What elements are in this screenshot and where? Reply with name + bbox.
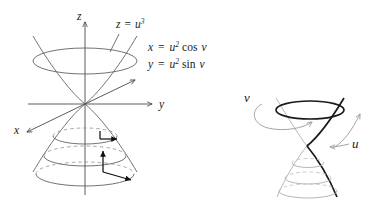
right-section-3-visible bbox=[279, 191, 337, 198]
right-section-3-hidden bbox=[279, 184, 337, 191]
right-lower-profile-light bbox=[277, 146, 307, 197]
right-rim-ellipse bbox=[276, 101, 344, 119]
u-leader-arrow bbox=[330, 144, 349, 147]
z-eq-exponent: 3 bbox=[140, 17, 145, 26]
right-panel-group: v u bbox=[244, 90, 360, 198]
right-lower-profile-bold bbox=[307, 146, 337, 197]
svg-text:z=u3: z=u3 bbox=[115, 17, 145, 30]
equation-x: x=u2cosv bbox=[147, 40, 207, 53]
eq-y-equals: = bbox=[158, 58, 165, 70]
x-axis bbox=[27, 104, 85, 132]
eq-y-lhs: y bbox=[147, 58, 154, 71]
upper-profile-right bbox=[85, 36, 137, 104]
v-direction-arrow bbox=[254, 104, 312, 130]
x-axis-opposite-ray bbox=[85, 80, 135, 104]
upper-profile-left bbox=[33, 36, 85, 104]
tangent-lower-horizontal bbox=[103, 172, 131, 180]
eq-x-arg: v bbox=[201, 41, 207, 53]
x-axis-label: x bbox=[13, 124, 20, 136]
z-label-leader bbox=[110, 34, 119, 52]
figure-canvas: z y x z=u3 x=u2cosv y=u2sinv bbox=[0, 0, 373, 204]
parametric-equations: x=u2cosv y=u2sinv bbox=[147, 40, 207, 71]
equation-y: y=u2sinv bbox=[147, 57, 206, 71]
eq-y-arg: v bbox=[200, 58, 206, 70]
z-eq-equals: = bbox=[124, 18, 131, 30]
z-eq-lhs: z bbox=[115, 18, 121, 30]
parametric-surface-figure: z y x z=u3 x=u2cosv y=u2sinv bbox=[0, 0, 373, 204]
eq-x-trig: cos bbox=[182, 41, 198, 53]
eq-y-exponent: 2 bbox=[175, 57, 179, 66]
eq-y-trig: sin bbox=[182, 58, 196, 70]
u-label: u bbox=[352, 136, 359, 151]
right-section-2-visible bbox=[285, 178, 331, 184]
eq-x-lhs: x bbox=[147, 41, 154, 53]
lower-profile-left bbox=[33, 104, 85, 172]
surface-equation-z: z=u3 bbox=[115, 17, 145, 30]
left-panel-group: z y x z=u3 x=u2cosv y=u2sinv bbox=[13, 10, 207, 195]
v-label: v bbox=[244, 90, 250, 105]
y-axis-label: y bbox=[158, 98, 165, 111]
eq-x-equals: = bbox=[158, 41, 165, 53]
right-section-2-hidden bbox=[285, 172, 331, 178]
eq-x-exponent: 2 bbox=[175, 40, 179, 49]
z-axis-label: z bbox=[76, 10, 82, 22]
